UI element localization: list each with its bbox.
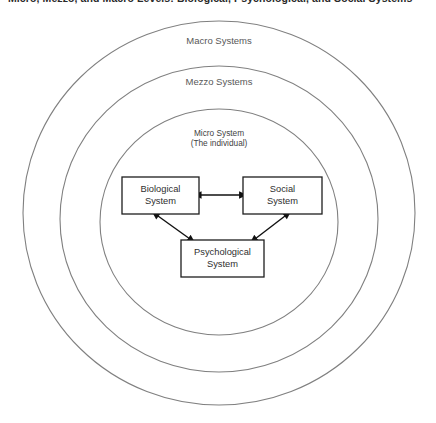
social-psychological-arrow: [255, 216, 285, 239]
psychological-system-label-line1: Psychological: [181, 247, 264, 259]
center-label-line1: Micro System: [129, 128, 309, 138]
psychological-system-label-line2: System: [181, 259, 264, 271]
biological-psychological-arrow: [158, 216, 190, 239]
biological-system-label: Biological System: [122, 184, 199, 207]
ring-mezzo: [60, 66, 378, 372]
social-system-label: Social System: [243, 184, 322, 207]
center-label-micro: Micro System (The individual): [129, 128, 309, 148]
diagram-canvas: [0, 0, 436, 423]
ring-label-macro: Macro Systems: [119, 35, 319, 47]
center-label-line2: (The individual): [129, 138, 309, 148]
social-system-label-line1: Social: [243, 184, 322, 196]
biological-system-label-line2: System: [122, 196, 199, 208]
psychological-system-label: Psychological System: [181, 247, 264, 270]
social-system-label-line2: System: [243, 196, 322, 208]
systems-diagram-figure: Micro, Mezzo, and Macro Levels: Biologic…: [0, 0, 436, 423]
ring-label-mezzo: Mezzo Systems: [119, 76, 319, 88]
biological-system-label-line1: Biological: [122, 184, 199, 196]
